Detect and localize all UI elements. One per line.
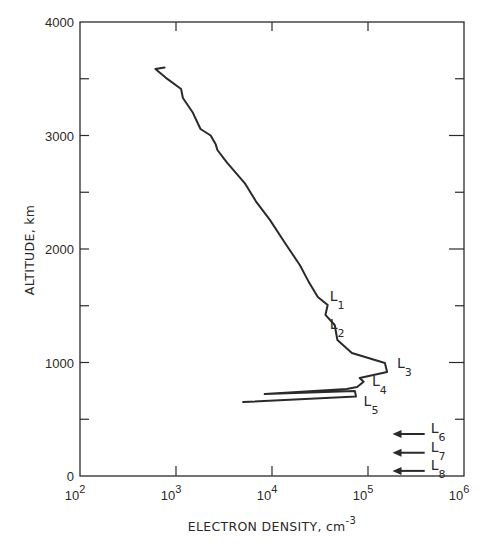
y-tick-label: 0: [67, 469, 74, 484]
y-tick-label: 3000: [45, 129, 74, 144]
layer-label: L4: [372, 373, 387, 397]
electron-density-chart: 01000200030004000 102103104105106 ALTITU…: [0, 0, 481, 550]
layer-label-L5: L5: [364, 393, 379, 417]
plot-frame: [80, 22, 464, 476]
x-axis-title-superscript: -3: [346, 515, 357, 526]
y-axis-title: ALTITUDE, km: [22, 205, 37, 295]
layer-label: L5: [364, 393, 379, 417]
x-axis-title: ELECTRON DENSITY, cm-3: [188, 515, 356, 534]
x-axis-title-text: ELECTRON DENSITY, cm: [188, 519, 346, 534]
data-series: [155, 67, 387, 402]
x-tick-label: 102: [65, 483, 86, 503]
x-tick-label: 106: [449, 483, 470, 503]
arrowhead-icon: [393, 449, 402, 457]
y-tick-label: 4000: [45, 15, 74, 30]
arrowhead-icon: [393, 467, 402, 475]
layer-label-L4: L4: [372, 373, 387, 397]
layer-label: L1: [330, 288, 345, 312]
layer-label-L8: L8: [393, 457, 446, 481]
layer-label-L1: L1: [330, 288, 345, 312]
layer-label: L3: [397, 355, 412, 379]
y-tick-label: 2000: [45, 242, 74, 257]
y-tick-label: 1000: [45, 356, 74, 371]
x-axis-tick-labels: 102103104105106: [65, 483, 470, 503]
layer-annotations: L1L2L3L4L5L6L7L8: [330, 288, 446, 481]
layer-label-L3: L3: [397, 355, 412, 379]
density-profile-line: [155, 67, 387, 402]
plot-border: [80, 22, 464, 476]
y-axis-tick-labels: 01000200030004000: [45, 15, 74, 484]
layer-label-L2: L2: [330, 316, 345, 340]
x-tick-label: 104: [257, 483, 278, 503]
arrowhead-icon: [393, 430, 402, 438]
x-axis-ticks: [176, 22, 368, 476]
x-tick-label: 103: [161, 483, 182, 503]
x-tick-label: 105: [353, 483, 374, 503]
layer-label: L2: [330, 316, 345, 340]
